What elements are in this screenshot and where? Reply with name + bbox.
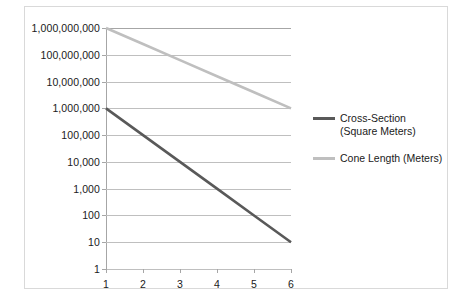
x-axis-label: 6 <box>288 278 294 290</box>
legend-label: Cone Length (Meters) <box>340 152 442 165</box>
legend-swatch <box>313 157 335 160</box>
y-axis-label: 100,000,000 <box>41 49 101 61</box>
y-axis-label: 100,000 <box>61 129 100 141</box>
x-axis-tick <box>217 269 218 273</box>
y-axis-label: 100 <box>82 209 100 221</box>
x-axis-tick <box>180 269 181 273</box>
x-axis-label: 5 <box>251 278 257 290</box>
x-axis-label: 1 <box>103 278 109 290</box>
y-axis-label: 10 <box>88 236 100 248</box>
y-axis-label: 10,000 <box>67 156 100 168</box>
y-axis-label: 1,000,000 <box>52 102 100 114</box>
x-axis-label: 4 <box>214 278 220 290</box>
x-axis-tick <box>254 269 255 273</box>
legend: Cross-Section (Square Meters)Cone Length… <box>313 112 445 179</box>
y-axis-label: 1,000 <box>73 183 100 195</box>
x-axis-tick <box>143 269 144 273</box>
plot-area: 1101001,00010,000100,0001,000,00010,000,… <box>106 28 291 269</box>
y-axis-label: 10,000,000 <box>46 76 100 88</box>
legend-label: Cross-Section (Square Meters) <box>340 112 445 138</box>
gridline <box>106 269 291 270</box>
legend-item[interactable]: Cone Length (Meters) <box>313 152 445 165</box>
series-line <box>106 28 291 108</box>
x-axis-tick <box>291 269 292 273</box>
y-axis-label: 1 <box>94 263 100 275</box>
x-axis-label: 2 <box>140 278 146 290</box>
x-axis-tick <box>106 269 107 273</box>
legend-swatch <box>313 117 335 120</box>
chart-container: 1101001,00010,000100,0001,000,00010,000,… <box>24 6 448 289</box>
legend-item[interactable]: Cross-Section (Square Meters) <box>313 112 445 138</box>
y-axis-label: 1,000,000,000 <box>32 22 100 34</box>
series-line <box>106 108 291 242</box>
data-series-group <box>106 28 291 269</box>
x-axis-label: 3 <box>177 278 183 290</box>
